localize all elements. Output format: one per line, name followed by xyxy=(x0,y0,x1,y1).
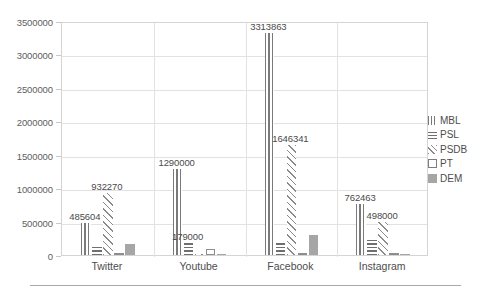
category-separator xyxy=(246,23,247,257)
legend-swatch-psdb-icon xyxy=(428,145,437,154)
gridline xyxy=(62,56,427,57)
bar-data-label: 932270 xyxy=(91,181,122,192)
bar-data-label: 762463 xyxy=(345,192,376,203)
bar-facebook-pt[interactable] xyxy=(298,253,308,255)
x-tick-label-instagram: Instagram xyxy=(359,260,406,272)
bar-instagram-dem[interactable] xyxy=(400,254,410,255)
bar-twitter-psdb[interactable] xyxy=(103,193,113,255)
bar-facebook-psdb[interactable] xyxy=(287,145,297,255)
y-tick-label: 2000000 xyxy=(17,117,53,128)
x-tick-label-facebook: Facebook xyxy=(267,260,313,272)
bar-twitter-pt[interactable] xyxy=(114,253,124,255)
y-tick-label: 1500000 xyxy=(17,150,53,161)
x-tick-label-youtube: Youtube xyxy=(180,260,218,272)
bar-facebook-dem[interactable] xyxy=(309,235,319,255)
bar-chart: 3500000300000025000002000000150000010000… xyxy=(0,0,491,296)
legend-label: PSDB xyxy=(440,144,467,155)
y-tick-label: 3000000 xyxy=(17,50,53,61)
y-tick-label: 2500000 xyxy=(17,83,53,94)
bar-youtube-pt[interactable] xyxy=(206,249,216,255)
bar-youtube-psdb[interactable] xyxy=(195,254,205,255)
legend-label: DEM xyxy=(440,173,462,184)
bottom-divider-rule xyxy=(30,285,461,286)
bar-data-label: 1290000 xyxy=(158,157,194,168)
bar-youtube-psl[interactable] xyxy=(184,243,194,255)
x-tick-label-twitter: Twitter xyxy=(91,260,122,272)
legend-swatch-dem-icon xyxy=(428,174,437,183)
bar-facebook-psl[interactable] xyxy=(276,242,286,255)
legend-item-dem[interactable]: DEM xyxy=(428,171,491,186)
legend-swatch-psl-icon xyxy=(428,130,437,139)
bar-instagram-pt[interactable] xyxy=(389,253,399,255)
bar-data-label: 485604 xyxy=(69,211,100,222)
gridline xyxy=(62,123,427,124)
y-tick-mark xyxy=(56,256,61,257)
bar-instagram-psl[interactable] xyxy=(367,238,377,255)
bar-twitter-mbl[interactable] xyxy=(81,223,91,255)
legend-item-psl[interactable]: PSL xyxy=(428,128,491,143)
bar-twitter-dem[interactable] xyxy=(125,244,135,255)
bar-facebook-mbl[interactable] xyxy=(265,33,275,255)
legend-label: PT xyxy=(440,158,453,169)
bar-youtube-mbl[interactable] xyxy=(173,169,183,255)
bar-twitter-psl[interactable] xyxy=(92,245,102,255)
legend-label: PSL xyxy=(440,129,459,140)
legend-swatch-mbl-icon xyxy=(428,116,437,125)
legend-item-psdb[interactable]: PSDB xyxy=(428,142,491,157)
y-tick-label: 3500000 xyxy=(17,17,53,28)
bar-data-label: 1646341 xyxy=(272,133,308,144)
y-tick-label: 500000 xyxy=(22,217,53,228)
gridline xyxy=(62,157,427,158)
gridline xyxy=(62,90,427,91)
bar-data-label: 498000 xyxy=(367,210,398,221)
plot-area xyxy=(61,22,428,256)
category-separator xyxy=(337,23,338,257)
legend-item-pt[interactable]: PT xyxy=(428,157,491,172)
legend-swatch-pt-icon xyxy=(428,159,437,168)
legend-item-mbl[interactable]: MBL xyxy=(428,113,491,128)
category-separator xyxy=(154,23,155,257)
bar-youtube-dem[interactable] xyxy=(217,254,227,255)
y-tick-label: 0 xyxy=(48,251,53,262)
bar-data-label: 179000 xyxy=(172,231,203,242)
bar-data-label: 3313863 xyxy=(250,21,286,32)
gridline xyxy=(62,224,427,225)
bar-instagram-psdb[interactable] xyxy=(378,222,388,255)
legend-label: MBL xyxy=(440,115,461,126)
y-tick-label: 1000000 xyxy=(17,184,53,195)
chart-legend: MBLPSLPSDBPTDEM xyxy=(428,113,491,186)
y-axis: 3500000300000025000002000000150000010000… xyxy=(0,0,61,256)
bar-instagram-mbl[interactable] xyxy=(356,204,366,255)
